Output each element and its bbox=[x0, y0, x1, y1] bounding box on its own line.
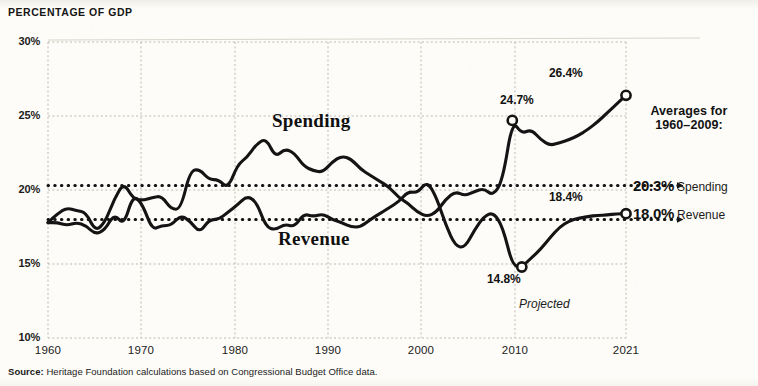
y-tick-20: 20% bbox=[6, 183, 40, 195]
point-marker-revenue-2010 bbox=[517, 262, 526, 271]
legend-row-spending: 20.3% Spending bbox=[633, 177, 728, 194]
legend-value-revenue: 18.0% bbox=[633, 205, 674, 222]
averages-heading-line2: 1960–2009: bbox=[633, 118, 745, 132]
chart-gridlines bbox=[48, 38, 700, 338]
source-label: Source: bbox=[8, 366, 44, 377]
series-label-revenue: Revenue bbox=[278, 228, 350, 250]
source-note: Source: Heritage Foundation calculations… bbox=[8, 366, 377, 377]
callout-revenue-2010: 14.8% bbox=[487, 272, 521, 286]
chart-point-markers bbox=[508, 91, 631, 272]
source-text: Heritage Foundation calculations based o… bbox=[44, 366, 378, 377]
point-marker-spending-2021 bbox=[621, 91, 630, 100]
x-tick-1990: 1990 bbox=[305, 344, 351, 356]
callout-spending-2021: 26.4% bbox=[549, 66, 583, 80]
averages-heading-line1: Averages for bbox=[650, 104, 727, 118]
point-marker-revenue-2021 bbox=[621, 209, 630, 218]
chart-page: PERCENTAGE OF GDP bbox=[0, 0, 758, 386]
x-tick-1980: 1980 bbox=[212, 344, 258, 356]
x-tick-1970: 1970 bbox=[118, 344, 164, 356]
x-tick-2021: 2021 bbox=[603, 344, 649, 356]
legend-value-spending: 20.3% bbox=[633, 177, 674, 194]
legend-name-spending: Spending bbox=[677, 180, 728, 194]
legend-name-revenue: Revenue bbox=[677, 208, 725, 222]
averages-heading: Averages for 1960–2009: bbox=[633, 104, 745, 132]
y-tick-15: 15% bbox=[6, 257, 40, 269]
y-tick-30: 30% bbox=[6, 35, 40, 47]
point-marker-spending-2009 bbox=[508, 116, 517, 125]
averages-legend: Averages for 1960–2009: 20.3% Spending 1… bbox=[633, 104, 758, 132]
series-label-spending: Spending bbox=[272, 110, 350, 132]
x-tick-2000: 2000 bbox=[398, 344, 444, 356]
x-tick-1960: 1960 bbox=[25, 344, 71, 356]
average-reference-lines bbox=[48, 186, 683, 220]
projected-annotation: Projected bbox=[519, 297, 570, 311]
callout-revenue-2021: 18.4% bbox=[549, 190, 583, 204]
legend-row-revenue: 18.0% Revenue bbox=[633, 205, 725, 222]
callout-spending-2009: 24.7% bbox=[500, 93, 534, 107]
y-tick-10: 10% bbox=[6, 331, 40, 343]
x-tick-2010: 2010 bbox=[492, 344, 538, 356]
y-tick-25: 25% bbox=[6, 109, 40, 121]
